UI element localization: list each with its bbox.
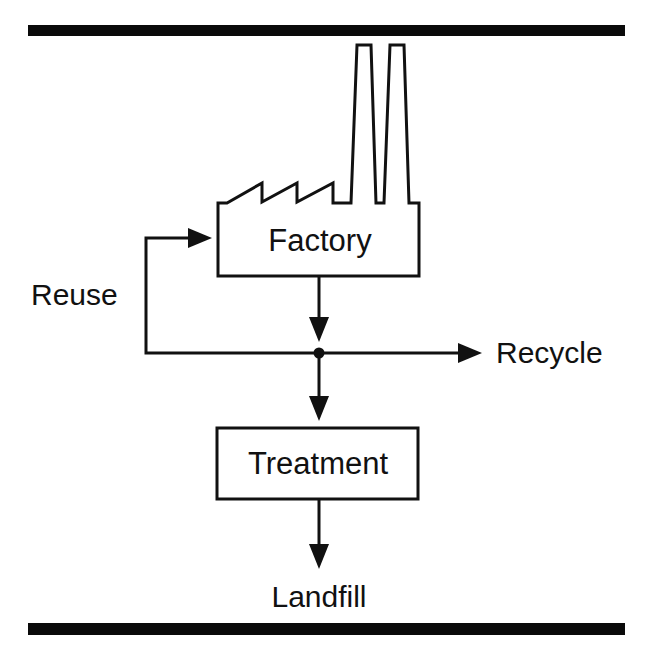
bottom-rule xyxy=(28,623,625,635)
landfill-label: Landfill xyxy=(271,580,366,613)
treatment-label: Treatment xyxy=(248,446,389,481)
arrowhead-right-icon xyxy=(458,343,482,363)
reuse-label: Reuse xyxy=(31,278,118,311)
arrowhead-down-icon xyxy=(309,544,329,569)
factory-node: Factory xyxy=(218,45,419,276)
arrowhead-down-icon xyxy=(309,396,329,421)
treatment-node: Treatment xyxy=(217,428,418,499)
arrowhead-right-icon xyxy=(188,228,212,248)
arrowhead-down-icon xyxy=(309,317,329,342)
recycle-label: Recycle xyxy=(496,336,603,369)
factory-label: Factory xyxy=(268,223,372,258)
top-rule xyxy=(28,25,625,36)
waste-flow-diagram: Factory Reuse Recycle Treatment Landfill xyxy=(0,0,645,647)
